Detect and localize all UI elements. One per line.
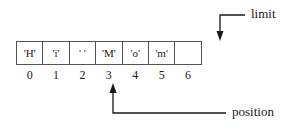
limit-arrow-icon (217, 15, 246, 41)
position-arrow-icon (110, 83, 227, 113)
position-label: position (232, 104, 274, 120)
limit-label: limit (251, 6, 276, 22)
